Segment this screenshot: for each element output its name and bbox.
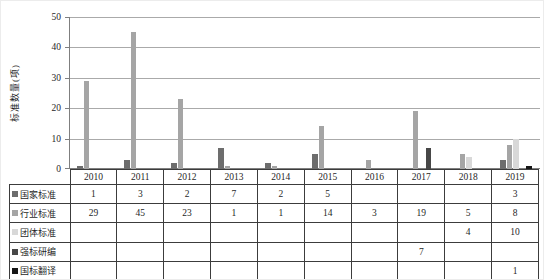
plot-area — [69, 17, 540, 169]
series-name-label: 国家标准 — [20, 190, 56, 200]
cell-团体标准-2014 — [257, 223, 304, 242]
cell-国家标准-2017 — [398, 185, 445, 204]
cell-国标翻译-2016 — [351, 261, 398, 280]
y-tick-label-50: 50 — [31, 12, 61, 22]
bar-行业标准-2019 — [507, 145, 513, 169]
cell-团体标准-2011 — [117, 223, 164, 242]
cell-国标翻译-2013 — [211, 261, 258, 280]
cell-国标翻译-2011 — [117, 261, 164, 280]
year-header-2018: 2018 — [445, 170, 492, 185]
year-header-2014: 2014 — [257, 170, 304, 185]
y-tickmark-10 — [65, 139, 69, 140]
cell-国家标准-2014: 2 — [257, 185, 304, 204]
series-name-label: 国标翻译 — [20, 266, 56, 276]
year-header-2013: 2013 — [211, 170, 258, 185]
cell-国标翻译-2010 — [70, 261, 117, 280]
cell-强标研编-2018 — [445, 242, 492, 261]
series-name-label: 行业标准 — [20, 209, 56, 219]
cell-团体标准-2017 — [398, 223, 445, 242]
cell-行业标准-2015: 14 — [304, 204, 351, 223]
cell-团体标准-2016 — [351, 223, 398, 242]
cell-国家标准-2015: 5 — [304, 185, 351, 204]
cell-国家标准-2018 — [445, 185, 492, 204]
series-label-国标翻译: 国标翻译 — [10, 261, 71, 280]
bar-国家标准-2013 — [218, 148, 224, 169]
cell-国家标准-2013: 7 — [211, 185, 258, 204]
year-header-2016: 2016 — [351, 170, 398, 185]
gridline-30 — [70, 78, 540, 79]
cell-行业标准-2018: 5 — [445, 204, 492, 223]
y-axis-title: 标准数量(项) — [8, 33, 22, 153]
cell-国标翻译-2017 — [398, 261, 445, 280]
cell-团体标准-2013 — [211, 223, 258, 242]
year-header-2010: 2010 — [70, 170, 117, 185]
cell-强标研编-2014 — [257, 242, 304, 261]
bar-国家标准-2011 — [124, 160, 130, 169]
cell-强标研编-2010 — [70, 242, 117, 261]
data-table: 2010201120122013201420152016201720182019… — [9, 169, 539, 280]
cell-强标研编-2011 — [117, 242, 164, 261]
cell-国标翻译-2015 — [304, 261, 351, 280]
y-tickmark-30 — [65, 78, 69, 79]
cell-强标研编-2017: 7 — [398, 242, 445, 261]
cell-国家标准-2011: 3 — [117, 185, 164, 204]
bar-行业标准-2012 — [178, 99, 184, 169]
bar-强标研编-2017 — [426, 148, 432, 169]
series-label-国家标准: 国家标准 — [10, 185, 71, 204]
y-tick-label-40: 40 — [31, 42, 61, 52]
cell-国家标准-2012: 2 — [164, 185, 211, 204]
cell-国标翻译-2012 — [164, 261, 211, 280]
series-name-label: 团体标准 — [20, 228, 56, 238]
bar-行业标准-2016 — [366, 160, 372, 169]
gridline-20 — [70, 108, 540, 109]
y-tickmark-20 — [65, 108, 69, 109]
cell-强标研编-2015 — [304, 242, 351, 261]
gridline-10 — [70, 139, 540, 140]
legend-swatch-团体标准 — [12, 229, 18, 235]
cell-强标研编-2016 — [351, 242, 398, 261]
bar-国家标准-2019 — [500, 160, 506, 169]
cell-国标翻译-2018 — [445, 261, 492, 280]
legend-swatch-强标研编 — [12, 249, 18, 255]
bar-行业标准-2018 — [460, 154, 466, 169]
cell-国标翻译-2014 — [257, 261, 304, 280]
cell-团体标准-2015 — [304, 223, 351, 242]
table-row-强标研编: 强标研编7 — [10, 242, 539, 261]
cell-团体标准-2018: 4 — [445, 223, 492, 242]
y-tickmark-50 — [65, 17, 69, 18]
year-header-2019: 2019 — [492, 170, 539, 185]
year-header-2015: 2015 — [304, 170, 351, 185]
cell-行业标准-2011: 45 — [117, 204, 164, 223]
series-label-团体标准: 团体标准 — [10, 223, 71, 242]
series-name-label: 强标研编 — [20, 247, 56, 257]
bar-行业标准-2017 — [413, 111, 419, 169]
cell-团体标准-2012 — [164, 223, 211, 242]
cell-强标研编-2013 — [211, 242, 258, 261]
legend-swatch-国家标准 — [12, 191, 18, 197]
cell-团体标准-2010 — [70, 223, 117, 242]
cell-行业标准-2012: 23 — [164, 204, 211, 223]
y-tick-label-10: 10 — [31, 134, 61, 144]
bar-行业标准-2015 — [319, 126, 325, 169]
y-tickmark-0 — [65, 168, 69, 169]
y-tick-label-20: 20 — [31, 103, 61, 113]
bar-行业标准-2010 — [84, 81, 90, 169]
table-corner-cell — [10, 170, 71, 185]
cell-国家标准-2019: 3 — [492, 185, 539, 204]
bar-国家标准-2015 — [312, 154, 318, 169]
bar-团体标准-2018 — [466, 157, 472, 169]
gridline-40 — [70, 47, 540, 48]
cell-强标研编-2019 — [492, 242, 539, 261]
cell-国家标准-2010: 1 — [70, 185, 117, 204]
cell-行业标准-2019: 8 — [492, 204, 539, 223]
year-header-2012: 2012 — [164, 170, 211, 185]
cell-国家标准-2016 — [351, 185, 398, 204]
cell-行业标准-2013: 1 — [211, 204, 258, 223]
cell-强标研编-2012 — [164, 242, 211, 261]
bar-团体标准-2019 — [513, 139, 519, 169]
table-row-国家标准: 国家标准1327253 — [10, 185, 539, 204]
legend-swatch-国标翻译 — [12, 268, 18, 274]
table-header-row: 2010201120122013201420152016201720182019 — [10, 170, 539, 185]
table-row-团体标准: 团体标准410 — [10, 223, 539, 242]
cell-行业标准-2017: 19 — [398, 204, 445, 223]
